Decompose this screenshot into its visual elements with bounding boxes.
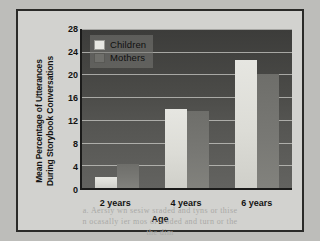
- legend-swatch-mothers: [94, 53, 105, 63]
- plot-area: ChildrenMothers: [80, 29, 292, 190]
- y-axis-tick-label: 4: [73, 162, 78, 172]
- bar-mothers: [187, 111, 209, 188]
- bar-group: [222, 29, 292, 188]
- legend-label: Children: [110, 39, 146, 50]
- ghost-text-line: the dim: [0, 228, 320, 237]
- legend: ChildrenMothers: [90, 35, 153, 68]
- legend-swatch-children: [94, 40, 105, 50]
- figure-frame: Mean Percentage of Utterances During Sto…: [16, 9, 304, 232]
- legend-label: Mothers: [110, 52, 145, 63]
- bar-mothers: [257, 74, 279, 188]
- legend-item: Children: [94, 38, 146, 51]
- bar-children: [95, 177, 117, 188]
- y-axis-tick-label: 8: [73, 139, 78, 149]
- bar-children: [235, 60, 257, 188]
- plot-wrapper: 2824201612840 ChildrenMothers: [80, 29, 292, 190]
- legend-item: Mothers: [94, 51, 146, 64]
- y-axis-tick-label: 28: [68, 24, 78, 34]
- y-axis-tick-label: 20: [68, 70, 78, 80]
- bar-group: [152, 29, 222, 188]
- y-axis-tick-label: 12: [68, 116, 78, 126]
- bar-chart: Mean Percentage of Utterances During Sto…: [18, 11, 302, 230]
- ghost-text-line: a. Aersiy wn sesiw sraded and tyns or th…: [0, 206, 320, 215]
- y-axis-tick-label: 16: [68, 93, 78, 103]
- bar-children: [165, 109, 187, 189]
- y-axis-ticks: 2824201612840: [58, 29, 78, 190]
- bar-mothers: [117, 164, 139, 188]
- y-axis-tick-label: 0: [73, 185, 78, 195]
- ghost-text-line: n ocasally ier mos or traded and turn or…: [0, 217, 320, 226]
- y-axis-title: Mean Percentage of Utterances During Sto…: [34, 46, 56, 196]
- page-background: a saecos aem dodn ae smeaaw sod Mean Per…: [0, 0, 320, 241]
- y-axis-tick-label: 24: [68, 47, 78, 57]
